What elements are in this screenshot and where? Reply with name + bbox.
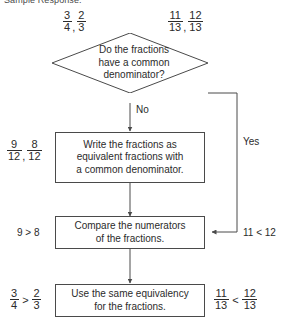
fraction-separator: , <box>22 150 25 163</box>
branch-label-no: No <box>136 104 149 115</box>
example-right-input: 11 13 , 12 13 <box>167 10 204 34</box>
branch-label-yes: Yes <box>243 136 259 147</box>
process-node-write-equivalent-fractions: Write the fractions as equivalent fracti… <box>55 132 205 183</box>
fraction-left-equivalent-2: 8 12 <box>27 139 42 163</box>
decision-node-common-denominator: Do the fractions have a common denominat… <box>52 33 208 93</box>
process-node-use-same-equivalency: Use the same equivalency for the fractio… <box>55 284 205 317</box>
example-left-result: 3 4 > 2 3 <box>9 288 42 312</box>
decision-node-label: Do the fractions have a common denominat… <box>90 44 169 81</box>
fraction-left-result-1: 3 4 <box>10 288 19 312</box>
fraction-right-input-1: 11 13 <box>168 10 183 34</box>
process-node-3-label: Use the same equivalency for the fractio… <box>71 288 188 312</box>
example-right-result: 11 13 < 12 13 <box>213 288 258 312</box>
example-left-equivalent: 9 12 , 8 12 <box>6 139 43 163</box>
fraction-left-input-1: 3 4 <box>63 10 72 34</box>
relation-operator: > <box>22 294 28 306</box>
fraction-separator: , <box>183 21 186 34</box>
process-node-1-label: Write the fractions as equivalent fracti… <box>76 139 183 176</box>
fraction-separator: , <box>72 21 75 34</box>
connector-yes-branch <box>208 93 237 232</box>
fraction-right-input-2: 12 13 <box>188 10 203 34</box>
example-left-numerator-compare: 9 > 8 <box>17 227 40 238</box>
fraction-left-equivalent-1: 9 12 <box>7 139 22 163</box>
relation-operator: < <box>232 294 238 306</box>
example-left-input: 3 4 , 2 3 <box>62 10 86 34</box>
page-title: Sample Response: <box>4 0 82 5</box>
process-node-compare-numerators: Compare the numerators of the fractions. <box>55 216 205 249</box>
fraction-left-input-2: 2 3 <box>77 10 86 34</box>
fraction-left-result-2: 2 3 <box>32 288 41 312</box>
example-right-numerator-compare: 11 < 12 <box>243 227 276 238</box>
process-node-2-label: Compare the numerators of the fractions. <box>74 220 185 244</box>
fraction-right-result-1: 11 13 <box>214 288 229 312</box>
fraction-right-result-2: 12 13 <box>242 288 257 312</box>
